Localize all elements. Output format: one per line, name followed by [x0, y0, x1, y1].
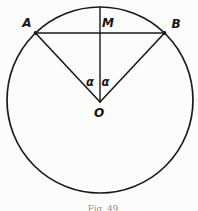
center-label-o: O — [94, 106, 104, 120]
angle-alpha-left-label: α — [86, 75, 94, 89]
point-b-dot — [163, 31, 167, 35]
radius-oa — [36, 33, 101, 102]
figure-drawing: A M B O α α Fig. 49 — [0, 0, 198, 211]
point-label-m: M — [102, 16, 114, 30]
point-label-a: A — [21, 16, 31, 30]
point-a-dot — [34, 31, 38, 35]
point-label-b: B — [171, 17, 180, 31]
figure-caption: Fig. 49 — [88, 204, 118, 211]
radius-ob — [100, 33, 165, 102]
geometry-figure: A M B O α α Fig. 49 — [0, 0, 198, 211]
angle-alpha-right-label: α — [102, 75, 110, 89]
